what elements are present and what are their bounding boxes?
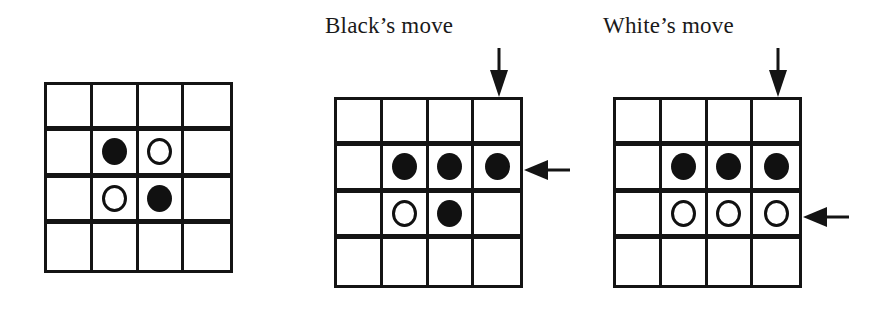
board-cell-r1-c4 (753, 100, 799, 146)
black-disc-icon (485, 153, 510, 180)
board-cell-r3-c1 (47, 178, 93, 224)
board-cell-r1-c1 (337, 100, 383, 146)
board-cell-r2-c1 (616, 146, 662, 192)
board-cell-r3-c1 (337, 193, 383, 239)
white-disc-icon (764, 200, 789, 227)
board-black-move (334, 97, 523, 288)
board-cell-r4-c1 (47, 224, 93, 270)
board-cell-r2-c4 (184, 131, 230, 177)
board-cell-r3-c3 (139, 178, 185, 224)
caption-white-move: White’s move (603, 13, 734, 39)
arrow-down-icon (489, 48, 509, 98)
black-disc-icon (147, 185, 172, 212)
board-cell-r3-c2 (662, 193, 708, 239)
board-cell-r2-c3 (429, 146, 475, 192)
board-cell-r3-c1 (616, 193, 662, 239)
board-cell-r3-c4 (474, 193, 520, 239)
caption-black-move: Black’s move (325, 13, 453, 39)
board-cell-r1-c1 (47, 85, 93, 131)
board-cell-r4-c4 (184, 224, 230, 270)
board-cell-r3-c4 (184, 178, 230, 224)
board-cell-r2-c2 (662, 146, 708, 192)
board-cell-r1-c4 (474, 100, 520, 146)
board-cell-r1-c1 (616, 100, 662, 146)
board-cell-r4-c3 (708, 239, 754, 285)
board-cell-r2-c1 (337, 146, 383, 192)
board-cell-r3-c4 (753, 193, 799, 239)
board-cell-r2-c2 (383, 146, 429, 192)
black-disc-icon (764, 153, 789, 180)
arrow-left-icon (522, 158, 572, 182)
board-cell-r4-c4 (474, 239, 520, 285)
black-disc-icon (671, 153, 696, 180)
white-disc-icon (671, 200, 696, 227)
board-cell-r2-c3 (708, 146, 754, 192)
white-disc-icon (147, 138, 172, 165)
board-white-move (613, 97, 802, 288)
board-cell-r3-c3 (429, 193, 475, 239)
board-cell-r1-c2 (93, 85, 139, 131)
board-cell-r2-c4 (474, 146, 520, 192)
board-cell-r4-c2 (93, 224, 139, 270)
board-cell-r3-c2 (93, 178, 139, 224)
black-disc-icon (437, 200, 462, 227)
board-cell-r4-c1 (337, 239, 383, 285)
board-cell-r4-c2 (383, 239, 429, 285)
board-cell-r4-c1 (616, 239, 662, 285)
board-cell-r4-c2 (662, 239, 708, 285)
board-cell-r1-c3 (429, 100, 475, 146)
black-disc-icon (392, 153, 417, 180)
board-cell-r1-c3 (708, 100, 754, 146)
board-cell-r4-c3 (429, 239, 475, 285)
arrow-left-icon (801, 205, 851, 229)
board-cell-r4-c4 (753, 239, 799, 285)
white-disc-icon (716, 200, 741, 227)
board-cell-r1-c3 (139, 85, 185, 131)
board-cell-r2-c2 (93, 131, 139, 177)
black-disc-icon (716, 153, 741, 180)
board-cell-r1-c4 (184, 85, 230, 131)
board-initial (44, 82, 233, 273)
board-cell-r1-c2 (662, 100, 708, 146)
arrow-down-icon (768, 48, 788, 98)
white-disc-icon (102, 185, 127, 212)
black-disc-icon (102, 138, 127, 165)
black-disc-icon (437, 153, 462, 180)
board-cell-r3-c3 (708, 193, 754, 239)
board-cell-r3-c2 (383, 193, 429, 239)
board-cell-r1-c2 (383, 100, 429, 146)
board-cell-r2-c3 (139, 131, 185, 177)
board-cell-r4-c3 (139, 224, 185, 270)
white-disc-icon (392, 200, 417, 227)
board-cell-r2-c4 (753, 146, 799, 192)
board-cell-r2-c1 (47, 131, 93, 177)
